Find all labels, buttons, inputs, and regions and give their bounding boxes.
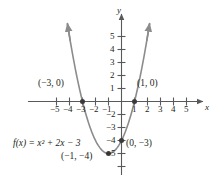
y-tick-label--5: −5: [106, 149, 116, 158]
x-tick-label-5: 5: [184, 105, 189, 114]
x-tick-label-3: 3: [158, 105, 163, 114]
y-tick-label--4: −4: [106, 136, 116, 145]
curve-arrow-right: [147, 24, 150, 41]
coordinate-plane: [0, 0, 217, 191]
x-tick-label--4: −4: [63, 105, 73, 114]
curve-arrow-left: [67, 24, 70, 41]
y-tick-label-1: 1: [110, 84, 115, 93]
graph-figure: y x −5 −4 −3 −2 −1 1 2 3 4 5 5 4 3 2 1 −…: [0, 0, 217, 191]
point-y-intercept: [119, 138, 124, 143]
parabola-left-branch: [67, 24, 149, 154]
x-tick-label--2: −2: [89, 105, 99, 114]
function-equation-text: f(x) = x² + 2x − 3: [13, 138, 80, 148]
y-tick-label-2: 2: [110, 71, 115, 80]
x-tick-label-1: 1: [132, 105, 137, 114]
function-equation-label: f(x) = x² + 2x − 3: [13, 139, 80, 149]
x-tick-label-2: 2: [145, 105, 150, 114]
point-label-vertex: (−1, −4): [61, 152, 92, 162]
point-label-y-intercept: (0, −3): [126, 139, 152, 149]
x-tick-label--5: −5: [50, 105, 60, 114]
y-tick-label-3: 3: [110, 58, 115, 67]
x-tick-label--3: −3: [76, 105, 86, 114]
y-tick-label-5: 5: [110, 32, 115, 41]
y-tick-label--2: −2: [106, 110, 116, 119]
y-tick-label--3: −3: [106, 123, 116, 132]
x-tick-label-4: 4: [171, 105, 176, 114]
x-axis-label: x: [205, 103, 209, 112]
y-tick-label-4: 4: [110, 45, 115, 54]
y-axis-label: y: [117, 6, 121, 15]
point-label-x-intercept-left: (−3, 0): [38, 79, 64, 89]
point-label-x-intercept-right: (1, 0): [137, 79, 158, 89]
